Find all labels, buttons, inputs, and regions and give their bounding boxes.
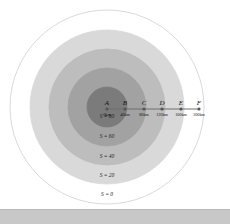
point-name: C	[142, 99, 147, 107]
point-marker-d	[160, 107, 163, 110]
ring-label: S = 60	[100, 133, 115, 139]
point-marker-b	[123, 107, 126, 110]
point-distance: 120km	[156, 112, 168, 117]
point-name: D	[158, 99, 164, 107]
point-distance: 80km	[139, 112, 149, 117]
point-distance: 160km	[175, 112, 187, 117]
concentric-rings-diagram: S = 0S = 20S = 40S = 60S = 80 A0kmB40kmC…	[0, 0, 230, 224]
ring-label: S = 20	[100, 172, 115, 178]
ring-label: S = 0	[101, 191, 113, 197]
point-marker-f	[197, 107, 200, 110]
point-marker-c	[142, 107, 145, 110]
bottom-bar	[0, 209, 230, 224]
ring-label: S = 40	[100, 153, 115, 159]
point-distance: 40km	[120, 112, 130, 117]
point-distance: 200km	[193, 112, 205, 117]
point-name: F	[196, 99, 202, 107]
point-name: A	[104, 99, 110, 107]
point-name: B	[123, 99, 128, 107]
point-name: E	[178, 99, 184, 107]
ring-4	[87, 87, 127, 127]
point-marker-a	[105, 107, 108, 110]
point-distance: 0km	[103, 112, 111, 117]
point-marker-e	[179, 107, 182, 110]
